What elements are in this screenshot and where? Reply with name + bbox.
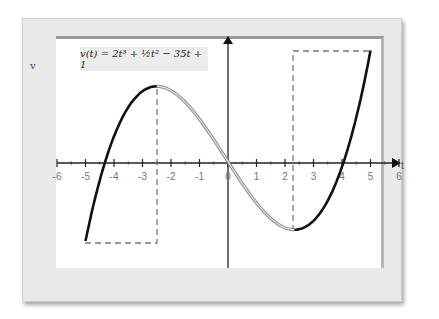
x-tick-label: -1	[195, 171, 204, 182]
x-tick-label: -6	[53, 171, 62, 182]
x-tick-label: 2	[282, 171, 288, 182]
x-tick-label: -3	[138, 171, 147, 182]
x-axis-label: t	[401, 160, 404, 171]
x-tick-label: -5	[81, 171, 90, 182]
y-axis-arrow-icon	[223, 36, 233, 44]
x-tick-label: -2	[167, 171, 176, 182]
x-tick-label: 3	[311, 171, 317, 182]
x-axis-arrow-icon	[392, 158, 401, 168]
chart-svg: -6-5-4-3-2-10123456 t	[0, 0, 439, 319]
x-tick-label: 1	[254, 171, 260, 182]
curve-middle-fill	[157, 86, 295, 229]
formula-box: v(t) = 2t³ + ½t² − 35t + 1	[80, 47, 208, 71]
x-tick-label: 6	[396, 171, 402, 182]
x-tick-label: 0	[225, 171, 231, 182]
left-guide	[85, 86, 157, 243]
x-tick-label: -4	[110, 171, 119, 182]
curve-right-segment	[294, 51, 370, 230]
x-tick-label: 5	[368, 171, 374, 182]
right-guide	[293, 51, 370, 231]
